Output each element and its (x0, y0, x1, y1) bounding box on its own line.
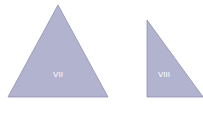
triangle-viii-label: VIII (158, 70, 170, 79)
triangle-vii (8, 5, 108, 97)
triangle-viii (147, 20, 203, 97)
triangle-vii-label: VII (53, 70, 63, 79)
triangles-diagram: VII VIII (0, 0, 203, 114)
